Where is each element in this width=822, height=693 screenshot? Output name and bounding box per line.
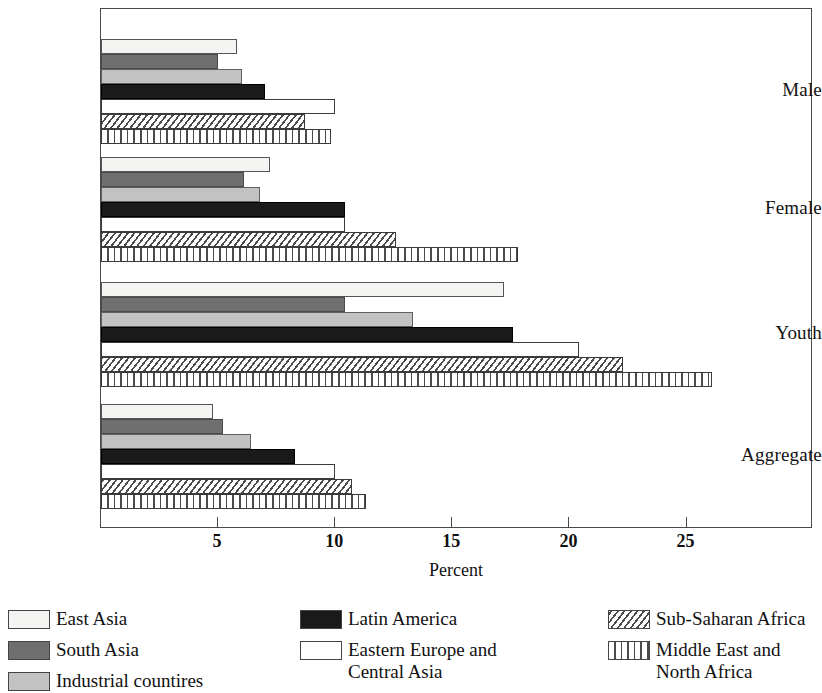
x-tick-label: 15 bbox=[431, 531, 471, 552]
bar-row bbox=[101, 157, 811, 172]
x-tick bbox=[568, 517, 569, 528]
bar bbox=[101, 202, 345, 217]
bar-row bbox=[101, 372, 811, 387]
bar bbox=[101, 297, 345, 312]
x-tick bbox=[451, 517, 452, 528]
bar bbox=[101, 99, 335, 114]
legend-item-middle-east-and: Middle East and North Africa bbox=[608, 639, 822, 665]
bar-row bbox=[101, 342, 811, 357]
bar-group-aggregate bbox=[101, 404, 811, 509]
bar-row bbox=[101, 419, 811, 434]
category-label-youth: Youth bbox=[730, 322, 822, 344]
legend-swatch bbox=[300, 641, 342, 660]
x-tick-label: 25 bbox=[666, 531, 706, 552]
category-label-female: Female bbox=[730, 197, 822, 219]
legend-swatch bbox=[300, 610, 342, 629]
legend-column-1: East AsiaSouth AsiaIndustrial countires bbox=[8, 608, 298, 693]
chart-legend: East AsiaSouth AsiaIndustrial countires … bbox=[0, 608, 822, 693]
bar-row bbox=[101, 172, 811, 187]
bar-chart: MaleFemaleYouthAggregate 510152025 Perce… bbox=[0, 0, 822, 600]
bar-row bbox=[101, 232, 811, 247]
bar bbox=[101, 479, 352, 494]
bar bbox=[101, 217, 345, 232]
bar bbox=[101, 157, 270, 172]
bar bbox=[101, 312, 413, 327]
legend-swatch bbox=[608, 610, 650, 629]
legend-label: Industrial countires bbox=[56, 670, 203, 692]
bar-row bbox=[101, 357, 811, 372]
bar bbox=[101, 464, 335, 479]
x-tick-label: 20 bbox=[548, 531, 588, 552]
bar-row bbox=[101, 434, 811, 449]
bar-row bbox=[101, 247, 811, 262]
legend-swatch bbox=[8, 610, 50, 629]
bar bbox=[101, 247, 518, 262]
legend-label: Eastern Europe and Central Asia bbox=[348, 639, 497, 683]
x-tick-label: 10 bbox=[314, 531, 354, 552]
legend-item-sub-saharan-africa: Sub-Saharan Africa bbox=[608, 608, 822, 634]
legend-column-3: Sub-Saharan AfricaMiddle East and North … bbox=[608, 608, 822, 670]
legend-label: Latin America bbox=[348, 608, 457, 630]
bar-row bbox=[101, 54, 811, 69]
x-axis-title: Percent bbox=[100, 560, 812, 581]
bar-row bbox=[101, 202, 811, 217]
x-tick bbox=[334, 517, 335, 528]
legend-swatch bbox=[8, 641, 50, 660]
bars-layer bbox=[101, 9, 811, 527]
bar-row bbox=[101, 449, 811, 464]
x-axis-ticks: 510152025 bbox=[100, 517, 812, 557]
legend-label: Sub-Saharan Africa bbox=[656, 608, 805, 630]
bar-row bbox=[101, 84, 811, 99]
legend-swatch bbox=[608, 641, 650, 660]
bar bbox=[101, 232, 396, 247]
bar bbox=[101, 404, 213, 419]
bar-row bbox=[101, 327, 811, 342]
category-label-male: Male bbox=[730, 79, 822, 101]
legend-item-eastern-europe-and: Eastern Europe and Central Asia bbox=[300, 639, 600, 665]
bar-row bbox=[101, 494, 811, 509]
bar-row bbox=[101, 297, 811, 312]
bar-row bbox=[101, 282, 811, 297]
bar bbox=[101, 357, 623, 372]
bar-row bbox=[101, 217, 811, 232]
legend-item-south-asia: South Asia bbox=[8, 639, 298, 665]
bar-row bbox=[101, 99, 811, 114]
bar bbox=[101, 54, 218, 69]
bar-row bbox=[101, 69, 811, 84]
legend-label: Middle East and North Africa bbox=[656, 639, 781, 683]
bar-row bbox=[101, 39, 811, 54]
bar bbox=[101, 342, 579, 357]
bar bbox=[101, 84, 265, 99]
legend-item-industrial-countires: Industrial countires bbox=[8, 670, 298, 693]
category-label-aggregate: Aggregate bbox=[730, 444, 822, 466]
bar bbox=[101, 129, 331, 144]
bar-row bbox=[101, 479, 811, 494]
bar bbox=[101, 282, 504, 297]
x-tick-label: 5 bbox=[197, 531, 237, 552]
bar bbox=[101, 372, 712, 387]
legend-swatch bbox=[8, 672, 50, 691]
bar bbox=[101, 39, 237, 54]
x-tick bbox=[217, 517, 218, 528]
legend-column-2: Latin AmericaEastern Europe and Central … bbox=[300, 608, 600, 670]
plot-frame bbox=[100, 8, 812, 528]
bar bbox=[101, 172, 244, 187]
legend-label: South Asia bbox=[56, 639, 139, 661]
bar-group-youth bbox=[101, 282, 811, 387]
x-tick bbox=[686, 517, 687, 528]
bar bbox=[101, 187, 260, 202]
bar-row bbox=[101, 129, 811, 144]
bar-group-male bbox=[101, 39, 811, 144]
bar bbox=[101, 419, 223, 434]
bar-row bbox=[101, 187, 811, 202]
bar-row bbox=[101, 114, 811, 129]
bar bbox=[101, 69, 242, 84]
bar-row bbox=[101, 464, 811, 479]
legend-label: East Asia bbox=[56, 608, 127, 630]
bar bbox=[101, 434, 251, 449]
bar-row bbox=[101, 312, 811, 327]
legend-item-east-asia: East Asia bbox=[8, 608, 298, 634]
bar bbox=[101, 494, 366, 509]
bar-group-female bbox=[101, 157, 811, 262]
bar bbox=[101, 114, 305, 129]
